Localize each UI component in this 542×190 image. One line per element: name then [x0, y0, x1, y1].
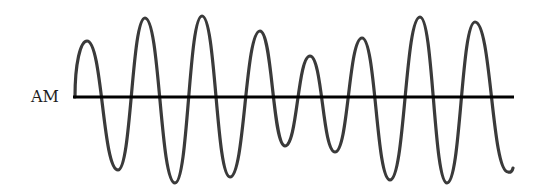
modulated-wave [75, 16, 513, 183]
am-waveform-diagram [0, 0, 542, 190]
